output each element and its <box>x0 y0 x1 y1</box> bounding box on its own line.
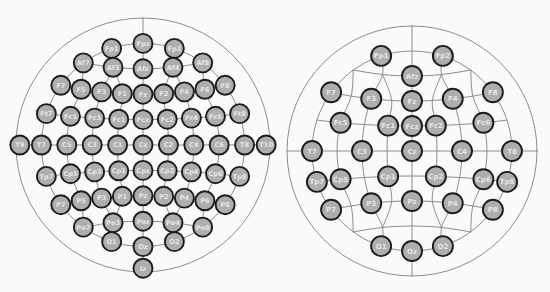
electrode-circle <box>230 167 249 186</box>
electrode-circle <box>473 169 493 189</box>
electrode-circle <box>497 172 517 192</box>
electrode-circle <box>51 195 70 214</box>
electrode-P4: P4 <box>175 189 194 208</box>
electrode-circle <box>182 162 201 181</box>
electrode-circle <box>331 169 351 189</box>
electrode-circle <box>165 39 184 58</box>
electrode-circle <box>134 34 153 53</box>
electrode-circle <box>302 141 322 161</box>
electrode-O2: O2 <box>165 232 184 251</box>
electrode-P8: P8 <box>483 200 503 220</box>
electrode-circle <box>134 136 153 155</box>
electrode-Afz: Afz <box>402 66 422 86</box>
head-diagram-left: Fp1FpzFp2Af7Af3AfzAf4Af8F7F5F3F1FzF2F4F6… <box>10 18 275 278</box>
electrode-circle <box>104 213 123 232</box>
electrode-F7: F7 <box>321 82 341 102</box>
electrode-circle <box>163 58 182 77</box>
electrode-F8: F8 <box>483 82 503 102</box>
electrode-circle <box>154 187 173 206</box>
electrode-Iz: Iz <box>134 259 153 278</box>
electrode-P5: P5 <box>72 191 91 210</box>
electrode-circle <box>483 82 503 102</box>
electrode-circle <box>109 110 128 129</box>
electrode-circle <box>402 91 422 111</box>
electrode-P2: P2 <box>154 187 173 206</box>
electrode-Af4: Af4 <box>163 58 182 77</box>
electrode-circle <box>134 59 153 78</box>
electrode-F6: F6 <box>195 80 214 99</box>
electrode-T8: T8 <box>235 136 254 155</box>
electrode-circle <box>433 46 453 66</box>
electrode-Cp2: Cp2 <box>158 161 177 180</box>
electrode-circle <box>216 195 235 214</box>
electrode-Cp5: Cp5 <box>331 169 351 189</box>
electrode-circle <box>321 82 341 102</box>
electrode-circle <box>307 172 327 192</box>
electrode-F5: F5 <box>72 80 91 99</box>
electrode-F3: F3 <box>361 89 381 109</box>
electrode-Fc2: Fc2 <box>426 116 446 136</box>
electrode-C3: C3 <box>352 141 372 161</box>
electrode-Fc1: Fc1 <box>109 110 128 129</box>
electrode-circle <box>402 141 422 161</box>
electrode-circle <box>37 104 56 123</box>
eeg-montage-figure: Fp1FpzFp2Af7Af3AfzAf4Af8F7F5F3F1FzF2F4F6… <box>0 0 550 292</box>
electrode-circle <box>235 136 254 155</box>
electrode-circle <box>134 237 153 256</box>
electrode-circle <box>85 162 104 181</box>
electrode-Fc3: Fc3 <box>85 109 104 128</box>
electrode-circle <box>402 66 422 86</box>
electrode-Fcz: Fcz <box>402 116 422 136</box>
electrode-T8: T8 <box>502 141 522 161</box>
electrode-circle <box>206 107 225 126</box>
electrode-Cz: Cz <box>134 136 153 155</box>
electrode-circle <box>113 84 132 103</box>
electrode-circle <box>134 212 153 231</box>
electrode-Cz: Cz <box>402 141 422 161</box>
electrode-Cp2: Cp2 <box>426 166 446 186</box>
electrode-F8: F8 <box>216 76 235 95</box>
electrode-circle <box>433 236 453 256</box>
electrode-O1: O1 <box>102 232 121 251</box>
electrode-circle <box>74 218 93 237</box>
electrode-circle <box>230 104 249 123</box>
electrode-Fp2: Fp2 <box>433 46 453 66</box>
electrode-F4: F4 <box>443 89 463 109</box>
electrode-O2: O2 <box>433 236 453 256</box>
electrode-circle <box>92 82 111 101</box>
electrode-circle <box>158 110 177 129</box>
electrode-Fc4: Fc4 <box>182 109 201 128</box>
electrode-Af7: Af7 <box>74 53 93 72</box>
electrode-Fz: Fz <box>134 85 153 104</box>
electrode-Poz: Poz <box>134 212 153 231</box>
electrode-Tp7: Tp7 <box>37 167 56 186</box>
electrode-Tp7: Tp7 <box>307 172 327 192</box>
electrode-circle <box>32 136 51 155</box>
electrode-circle <box>352 141 372 161</box>
electrode-Oz: Oz <box>134 237 153 256</box>
electrode-circle <box>473 113 493 133</box>
electrode-P3: P3 <box>92 189 111 208</box>
electrode-circle <box>193 53 212 72</box>
head-diagram-right: Fp1Fp2AfzF7F3FzF4F8Fc5Fc1FczFc2Fc6T7C3Cz… <box>287 26 537 276</box>
electrode-circle <box>113 187 132 206</box>
electrode-circle <box>378 166 398 186</box>
electrode-circle <box>402 241 422 261</box>
electrode-circle <box>210 136 229 155</box>
electrode-Cp1: Cp1 <box>378 166 398 186</box>
electrode-circle <box>216 76 235 95</box>
electrode-circle <box>443 89 463 109</box>
electrode-Fc6: Fc6 <box>473 113 493 133</box>
electrode-circle <box>72 80 91 99</box>
electrode-C4: C4 <box>452 141 472 161</box>
electrode-circle <box>195 191 214 210</box>
electrode-circle <box>74 53 93 72</box>
electrode-O1: O1 <box>371 236 391 256</box>
electrode-Cp3: Cp3 <box>85 162 104 181</box>
electrode-P4: P4 <box>443 193 463 213</box>
electrode-circle <box>371 46 391 66</box>
electrode-Fc1: Fc1 <box>378 116 398 136</box>
electrode-circle <box>331 113 351 133</box>
electrode-Pz: Pz <box>134 186 153 205</box>
electrode-Tp8: Tp8 <box>497 172 517 192</box>
